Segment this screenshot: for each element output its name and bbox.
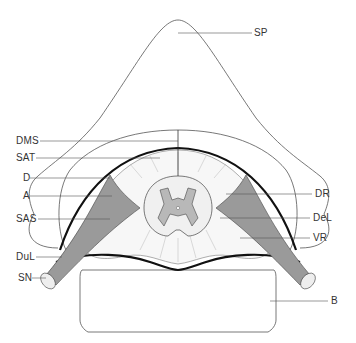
- label-dul: DuL: [16, 252, 35, 262]
- label-vr: VR: [313, 233, 327, 243]
- vertebral-body: [80, 270, 276, 332]
- label-sat: SAT: [16, 153, 35, 163]
- label-sas: SAS: [16, 214, 37, 224]
- label-a: A: [23, 191, 30, 201]
- label-dr: DR: [315, 189, 330, 199]
- label-b: B: [331, 296, 338, 306]
- label-d: D: [23, 173, 30, 183]
- label-sp: SP: [254, 28, 268, 38]
- label-del: DeL: [313, 213, 332, 223]
- label-dms: DMS: [16, 136, 39, 146]
- spinal-cross-section-diagram: [0, 0, 356, 343]
- central-canal: [176, 206, 179, 209]
- label-sn: SN: [18, 273, 32, 283]
